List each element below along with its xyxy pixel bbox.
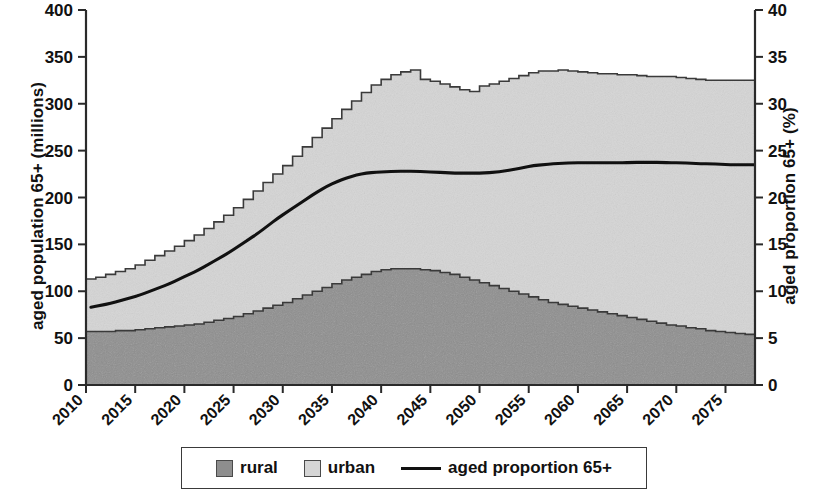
x-axis-tick-label: 2040 — [344, 391, 381, 428]
chart-legend: rural urban aged proportion 65+ — [181, 447, 647, 489]
legend-label-aged-proportion: aged proportion 65+ — [448, 458, 612, 478]
chart-plot-area: 050100150200250300350400 051015202530354… — [0, 0, 827, 492]
y-axis-right-tick-label: 15 — [768, 235, 787, 254]
legend-item-rural: rural — [216, 458, 278, 478]
y-axis-left-tick-label: 350 — [45, 48, 73, 67]
x-axis-tick-label: 2050 — [442, 391, 479, 428]
legend-label-rural: rural — [240, 458, 278, 478]
x-axis-tick-label: 2035 — [295, 391, 332, 428]
urban-swatch-icon — [304, 460, 321, 477]
x-axis-tick-label: 2020 — [147, 391, 184, 428]
y-axis-right-tick-label: 30 — [768, 95, 787, 114]
y-axis-left-tick-label: 150 — [45, 235, 73, 254]
x-axis-tick-label: 2025 — [197, 391, 234, 428]
legend-label-urban: urban — [328, 458, 375, 478]
x-axis-tick-label: 2045 — [393, 391, 430, 428]
y-axis-right-tick-label: 35 — [768, 48, 787, 67]
chart-figure: aged population 65+ (millions) aged prop… — [0, 0, 827, 492]
legend-item-aged-proportion: aged proportion 65+ — [401, 458, 612, 478]
x-axis-tick-label: 2065 — [590, 391, 627, 428]
y-axis-left-tick-label: 0 — [64, 376, 73, 395]
y-axis-left-tick-label: 50 — [54, 329, 73, 348]
x-axis-tick-label: 2030 — [246, 391, 283, 428]
aged-proportion-line-icon — [401, 467, 441, 470]
x-axis-ticks: 2010201520202025203020352040204520502055… — [49, 385, 726, 428]
y-axis-left-tick-label: 400 — [45, 1, 73, 20]
y-axis-left-ticks: 050100150200250300350400 — [45, 1, 86, 395]
x-axis-tick-label: 2015 — [98, 391, 135, 428]
y-axis-left-tick-label: 250 — [45, 142, 73, 161]
stacked-areas — [86, 70, 765, 385]
x-axis-tick-label: 2010 — [49, 391, 86, 428]
x-axis-tick-label: 2075 — [688, 391, 725, 428]
y-axis-left-tick-label: 300 — [45, 95, 73, 114]
x-axis-tick-label: 2060 — [541, 391, 578, 428]
y-axis-right-ticks: 0510152025303540 — [755, 1, 787, 395]
y-axis-right-tick-label: 40 — [768, 1, 787, 20]
y-axis-right-tick-label: 25 — [768, 142, 787, 161]
y-axis-right-tick-label: 0 — [768, 376, 777, 395]
x-axis-tick-label: 2055 — [492, 391, 529, 428]
y-axis-right-tick-label: 20 — [768, 189, 787, 208]
rural-swatch-icon — [216, 460, 233, 477]
x-axis-tick-label: 2070 — [639, 391, 676, 428]
y-axis-right-tick-label: 10 — [768, 282, 787, 301]
legend-item-urban: urban — [304, 458, 375, 478]
y-axis-left-tick-label: 200 — [45, 189, 73, 208]
y-axis-right-tick-label: 5 — [768, 329, 777, 348]
y-axis-left-tick-label: 100 — [45, 282, 73, 301]
